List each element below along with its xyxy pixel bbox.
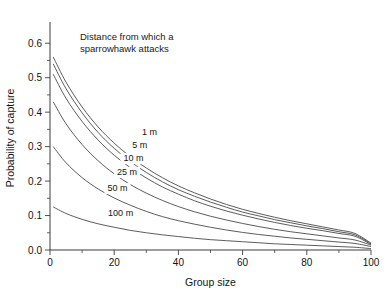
y-tick-label: 0.1 [28, 210, 42, 221]
curve-1-m [53, 57, 371, 243]
x-tick-label: 100 [363, 257, 380, 268]
y-tick-label: 0.6 [28, 38, 42, 49]
x-axis-ticks: 020406080100 [47, 250, 380, 268]
curve-label-100-m: 100 m [108, 208, 133, 218]
x-tick-label: 40 [173, 257, 185, 268]
y-axis-title: Probability of capture [4, 89, 16, 188]
curve-label-25-m: 25 m [117, 167, 137, 177]
curve-label-1-m: 1 m [142, 127, 157, 137]
x-axis-title: Group size [185, 276, 236, 288]
y-tick-label: 0.0 [28, 245, 42, 256]
y-tick-label: 0.4 [28, 107, 42, 118]
probability-of-capture-line-chart: 0.00.10.20.30.40.50.6 020406080100 1 m5 … [0, 0, 386, 295]
x-tick-label: 20 [109, 257, 121, 268]
data-curves [53, 57, 371, 249]
x-tick-label: 0 [47, 257, 53, 268]
curve-25-m [53, 102, 371, 245]
chart-figure: 0.00.10.20.30.40.50.6 020406080100 1 m5 … [0, 0, 386, 295]
curve-label-10-m: 10 m [123, 153, 143, 163]
x-tick-label: 60 [237, 257, 249, 268]
y-axis-ticks: 0.00.10.20.30.40.50.6 [28, 38, 50, 256]
curve-50-m [53, 147, 371, 247]
annotation-line-1: Distance from which a [80, 31, 174, 42]
y-tick-label: 0.5 [28, 72, 42, 83]
annotation-line-2: sparrowhawk attacks [80, 43, 169, 54]
curve-label-50-m: 50 m [107, 183, 127, 193]
x-tick-label: 80 [301, 257, 313, 268]
curve-label-5-m: 5 m [132, 140, 147, 150]
curve-10-m [53, 74, 371, 244]
y-tick-label: 0.2 [28, 176, 42, 187]
y-tick-label: 0.3 [28, 141, 42, 152]
